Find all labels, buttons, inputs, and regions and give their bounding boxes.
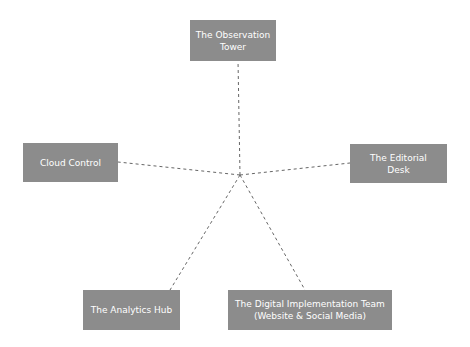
connector-digital [240, 175, 305, 290]
connector-analytics [170, 175, 240, 290]
node-editorial-desk: The Editorial Desk [350, 144, 447, 183]
node-digital-implementation-team: The Digital Implementation Team (Website… [228, 290, 392, 330]
node-label: The Observation Tower [196, 29, 270, 53]
node-label: The Digital Implementation Team (Website… [235, 298, 385, 322]
node-label: The Editorial Desk [370, 152, 427, 176]
node-label: The Analytics Hub [91, 304, 173, 316]
node-cloud-control: Cloud Control [23, 143, 118, 182]
connector-editorial [240, 163, 350, 175]
connector-observation [238, 60, 240, 175]
connector-cloud [118, 162, 240, 175]
node-observation-tower: The Observation Tower [190, 20, 276, 61]
node-analytics-hub: The Analytics Hub [83, 290, 180, 330]
node-label: Cloud Control [40, 157, 101, 169]
